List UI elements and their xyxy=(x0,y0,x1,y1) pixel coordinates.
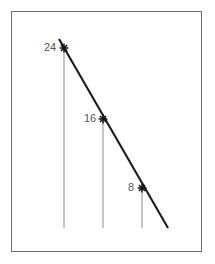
star-marker-24 xyxy=(60,44,69,53)
data-line xyxy=(59,39,168,228)
star-marker-8 xyxy=(138,184,147,193)
data-label-16: 16 xyxy=(84,113,96,124)
star-marker-16 xyxy=(99,115,108,124)
figure-root: 24 16 8 xyxy=(0,0,215,264)
droplines-group xyxy=(64,49,142,228)
plot-canvas xyxy=(0,0,215,264)
data-label-24: 24 xyxy=(44,42,56,53)
data-label-8: 8 xyxy=(128,182,134,193)
